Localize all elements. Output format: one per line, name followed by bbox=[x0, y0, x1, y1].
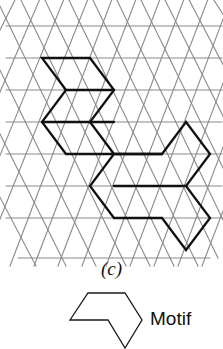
lattice-line-d2 bbox=[90, 0, 218, 258]
lattice-line-d1 bbox=[0, 0, 18, 42]
lattice-diagonal-right-lines bbox=[0, 0, 223, 266]
motif-label: Motif bbox=[150, 308, 191, 330]
lattice-diagonal-left-lines bbox=[0, 0, 223, 266]
motif-polygon bbox=[70, 293, 142, 348]
lattice-line-d2 bbox=[0, 186, 36, 266]
lattice-line-d2 bbox=[210, 0, 223, 22]
lattice-line-d2 bbox=[186, 0, 223, 74]
lattice-grid bbox=[0, 0, 223, 266]
lattice-line-d2 bbox=[18, 0, 150, 266]
lattice-figure bbox=[0, 0, 223, 349]
motif-polygon-path bbox=[70, 293, 142, 348]
lattice-line-d2 bbox=[0, 0, 126, 266]
panel-label: (c) bbox=[0, 258, 223, 280]
lattice-line-d2 bbox=[138, 0, 223, 178]
